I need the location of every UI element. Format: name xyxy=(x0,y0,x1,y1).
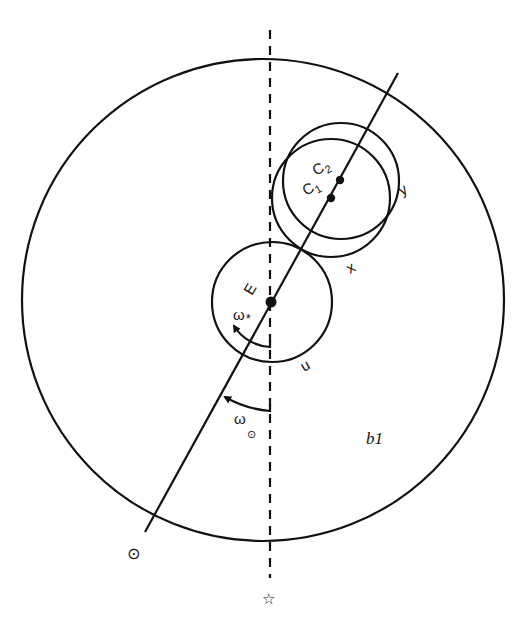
point-E xyxy=(266,297,277,308)
point-C2 xyxy=(336,176,344,184)
label-omega-sun-subscript: ⊙ xyxy=(247,428,256,441)
omega-sun-arc xyxy=(225,397,270,411)
label-b1: b1 xyxy=(366,429,383,448)
orbital-diagram: C2 C1 y x u E ω* ω ⊙ b1 ⊙ ☆ xyxy=(0,0,515,624)
label-x: x xyxy=(343,258,358,277)
sun-symbol-icon: ⊙ xyxy=(127,544,140,563)
star-symbol-icon: ☆ xyxy=(262,590,275,608)
label-E: E xyxy=(240,280,260,297)
point-C1 xyxy=(327,194,335,202)
label-C1: C1 xyxy=(299,175,324,201)
label-omega-sun: ω xyxy=(234,410,246,427)
label-C2: C2 xyxy=(309,155,334,181)
label-omega-star: ω* xyxy=(233,306,251,326)
outer-circle-b1 xyxy=(22,59,504,541)
label-u: u xyxy=(297,356,313,375)
